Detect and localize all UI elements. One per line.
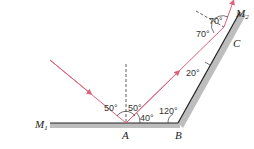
point-label-b: B: [175, 129, 182, 141]
two-mirror-reflection-diagram: 50° 50° 40° 120° 20° 70° 70° A B C M1 M2: [0, 0, 254, 149]
outgoing-ray-segment: [224, 2, 233, 27]
figure-caption: [2, 143, 252, 149]
angle-label-reflected-a: 50°: [128, 103, 142, 113]
angle-label-20: 20°: [186, 68, 200, 78]
point-label-c: C: [233, 37, 241, 49]
angle-label-incident-a: 50°: [104, 103, 118, 113]
mirror-label-m2: M2: [235, 7, 249, 21]
point-label-a: A: [121, 129, 129, 141]
mirror-label-m1: M1: [34, 118, 48, 132]
mirror-m1: [50, 123, 180, 128]
figure-caption-tag: [2, 143, 4, 149]
angle-label-40: 40°: [140, 113, 154, 123]
angle-label-70-top: 70°: [209, 16, 223, 26]
angle-label-120: 120°: [159, 106, 178, 116]
angle-label-70-left: 70°: [196, 29, 210, 39]
